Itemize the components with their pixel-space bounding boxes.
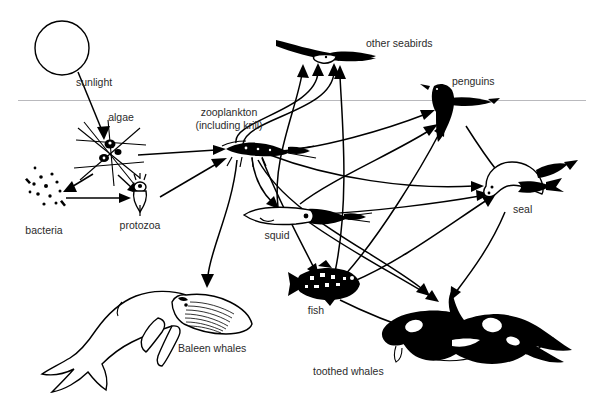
flow-zooplankton-to-penguins <box>268 110 435 152</box>
sunlight-label: sunlight <box>76 76 112 88</box>
zooplankton-label-line1: zooplankton <box>201 106 258 118</box>
flow-algae-to-zooplankton <box>138 145 226 155</box>
flow-squid-to-penguins <box>300 124 438 204</box>
other-seabirds-label: other seabirds <box>366 37 433 49</box>
flow-fish-to-seabirds <box>334 65 346 272</box>
flow-zooplankton-to-seal <box>270 155 484 192</box>
protozoa-label: protozoa <box>120 219 161 231</box>
flow-zooplankton-to-seabirds <box>236 63 340 144</box>
toothed-whales-label: toothed whales <box>313 365 384 377</box>
squid-icon <box>244 207 372 224</box>
penguins-label: penguins <box>452 75 495 87</box>
food-web-canvas: sunlight algae bacteria protozoa zooplan… <box>0 0 608 413</box>
zooplankton-label-line2: (including krill) <box>195 119 262 131</box>
flow-bacteria-to-protozoa <box>66 193 131 203</box>
food-web-diagram: sunlight algae bacteria protozoa zooplan… <box>0 0 608 413</box>
flow-algae-to-bacteria <box>63 174 93 192</box>
flow-protozoa-to-zooplankton <box>160 158 227 197</box>
seal-icon <box>484 160 578 197</box>
flow-fish-to-penguins <box>344 122 445 276</box>
seal-label: seal <box>513 203 532 215</box>
fish-icon <box>288 260 360 306</box>
fish-label: fish <box>308 304 325 316</box>
algae-label: algae <box>108 111 134 123</box>
flow-squid-to-seabirds <box>277 64 309 207</box>
flow-zooplankton-to-baleen <box>201 160 237 288</box>
penguin-icon <box>420 84 500 142</box>
squid-label: squid <box>264 229 289 241</box>
seabird-icon <box>276 40 376 63</box>
bacteria-dots-icon <box>25 167 66 207</box>
protozoa-ciliate-icon <box>133 173 146 216</box>
orca-icon <box>382 290 572 364</box>
flow-seal-to-toothed <box>450 212 505 301</box>
bacteria-label: bacteria <box>25 224 63 236</box>
sun-circle-icon <box>35 21 89 75</box>
baleen-whales-label: Baleen whales <box>178 342 246 354</box>
